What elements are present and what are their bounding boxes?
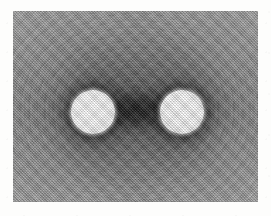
right-contour-fringes [13,11,258,202]
disc-right [160,90,204,134]
panel-vignette [13,11,258,202]
disc-left [71,90,115,134]
figure-root [0,0,271,216]
outer-contour-fringes [13,11,258,202]
field-image-panel [13,11,258,202]
scanline-overlay [13,11,258,202]
disc-left-grain [71,90,115,134]
disc-right-grain [160,90,204,134]
left-contour-fringes [13,11,258,202]
bridge-saddle-shadow [13,11,258,202]
figure-caption [0,0,1,1]
halftone-screen [13,11,258,202]
field-base-gradient [13,11,258,202]
